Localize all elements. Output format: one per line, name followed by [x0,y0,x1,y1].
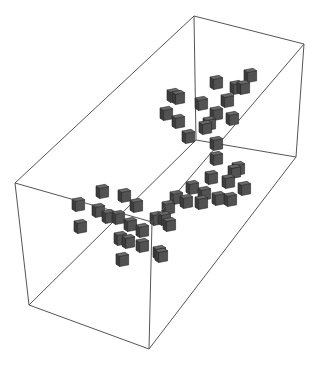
box-edge [194,16,304,44]
voxel-cube [172,90,185,104]
voxel-cube [238,181,251,195]
voxel-cube [122,234,135,248]
bounding-box-back-edges [15,16,304,349]
voxel-cube [160,106,173,120]
voxel-cube [221,93,234,107]
voxel-cube [195,195,208,209]
box-edge [194,16,196,140]
voxel-cube [130,198,143,212]
box-edge [296,44,304,157]
voxel-cube [155,248,168,262]
box-edge [149,222,152,349]
voxel-cube [199,120,212,134]
voxel-cubes [72,68,257,266]
voxel-cube [210,151,223,165]
voxel-cube [118,188,131,202]
voxel-cube [74,219,87,233]
voxel-cube [237,80,250,94]
box-edge [15,183,29,305]
voxel-cube [172,114,185,128]
box-edge [29,305,149,349]
voxel-cube [195,96,208,110]
voxel-cube [136,238,149,252]
voxel-plot-canvas [0,0,316,366]
voxel-cube [224,192,237,206]
bounding-box-front-edges [15,44,304,349]
voxel-cube [212,191,225,205]
voxel-cube [124,217,137,231]
voxel-cube [210,75,223,89]
voxel-cube [180,194,193,208]
voxel-cube [186,180,199,194]
voxel-cube [136,223,149,237]
voxel-cube [96,184,109,198]
voxel-cube [116,252,129,266]
voxel-cube [205,170,218,184]
voxel-cube [163,217,176,231]
voxel-cube [222,174,235,188]
voxel-cube [210,136,223,150]
voxel-cube [182,129,195,143]
